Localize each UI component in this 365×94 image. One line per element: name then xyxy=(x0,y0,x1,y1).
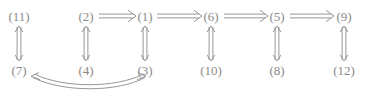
diagram-canvas: (11) (2) (1) (6) (5) (9) (7) (4) (3) (10… xyxy=(0,0,365,94)
node-label-7: (7) xyxy=(11,64,26,77)
edge-6-to-5 xyxy=(224,10,268,22)
node-label-11: (11) xyxy=(8,10,29,23)
node-label-2: (2) xyxy=(78,10,93,23)
node-label-5: (5) xyxy=(269,10,284,23)
edge-6-to-10 xyxy=(207,26,215,61)
edge-2-to-1 xyxy=(99,10,136,22)
edge-2-to-4 xyxy=(82,26,90,61)
edge-1-to-3 xyxy=(141,26,149,61)
node-label-12: (12) xyxy=(333,64,355,77)
node-label-10: (10) xyxy=(200,64,222,77)
node-label-3: (3) xyxy=(137,64,152,77)
edge-1-to-6 xyxy=(157,10,202,22)
node-label-8: (8) xyxy=(269,64,284,77)
node-label-9: (9) xyxy=(336,10,351,23)
edge-5-to-8 xyxy=(273,26,281,61)
edge-11-to-7 xyxy=(15,26,23,61)
node-label-1: (1) xyxy=(137,10,152,23)
edge-5-to-9 xyxy=(290,10,334,22)
edge-9-to-12 xyxy=(340,26,348,61)
diagram-edges-layer xyxy=(0,0,365,94)
node-label-6: (6) xyxy=(203,10,218,23)
node-label-4: (4) xyxy=(78,64,93,77)
